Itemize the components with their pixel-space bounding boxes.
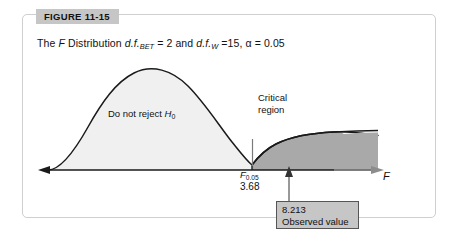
critical-value-alpha-subscript: 0.05: [246, 174, 259, 181]
f-distribution-plot: [0, 0, 459, 244]
x-axis-label: F: [383, 170, 390, 182]
critical-region-label: Critical region: [258, 92, 287, 115]
figure-number-badge: FIGURE 11-15: [36, 9, 119, 24]
critical-value-f-symbol: F: [240, 169, 246, 180]
f-distribution-tail: [300, 133, 378, 171]
observed-value-number: 8.213: [282, 204, 358, 216]
critical-region-line2: region: [258, 104, 284, 115]
hypothesis-subscript: 0: [171, 113, 175, 120]
figure-container: FIGURE 11-15 The F Distribution d.f.BET …: [0, 0, 459, 244]
critical-value-label: F0.05 3.68: [240, 169, 259, 192]
observed-value-caption: Observed value: [282, 216, 358, 228]
critical-value-number: 3.68: [240, 181, 259, 192]
axis-left-arrowhead: [38, 166, 50, 174]
do-not-reject-label: Do not reject H0: [108, 108, 175, 119]
critical-region-line1: Critical: [258, 92, 287, 103]
do-not-reject-region: [48, 69, 252, 170]
observed-value-callout: 8.213 Observed value: [276, 201, 359, 229]
do-not-reject-text: Do not reject: [108, 108, 162, 119]
